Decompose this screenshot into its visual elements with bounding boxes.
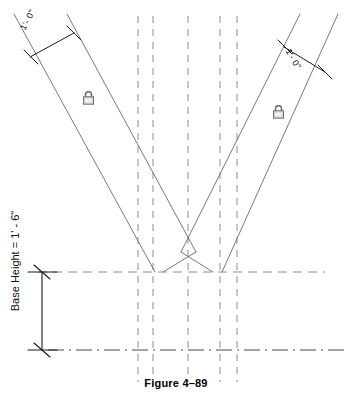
left-inner-incline — [67, 14, 196, 252]
left-outer-incline — [14, 14, 155, 272]
left-dim-line — [30, 33, 74, 57]
vertical-grid-lines — [138, 16, 237, 382]
lock-icon — [82, 91, 95, 105]
lock-icon — [272, 105, 285, 119]
right-outer-incline — [222, 14, 338, 272]
right-dim-tick-b — [318, 65, 332, 79]
left-thickness-dimension — [24, 26, 81, 64]
right-inner-incline — [181, 14, 300, 252]
left-return-incline — [163, 252, 196, 272]
base-height-dimension — [28, 265, 57, 357]
left-dim-tick-b — [67, 26, 81, 40]
figure-container: 1'- 0" 1'- 0" Base Height = 1' - 6" Figu… — [0, 0, 352, 400]
left-dim-tick-a — [24, 50, 38, 64]
figure-caption: Figure 4–89 — [0, 377, 352, 389]
base-height-label: Base Height = 1' - 6" — [9, 201, 21, 321]
right-return-incline — [181, 252, 213, 272]
